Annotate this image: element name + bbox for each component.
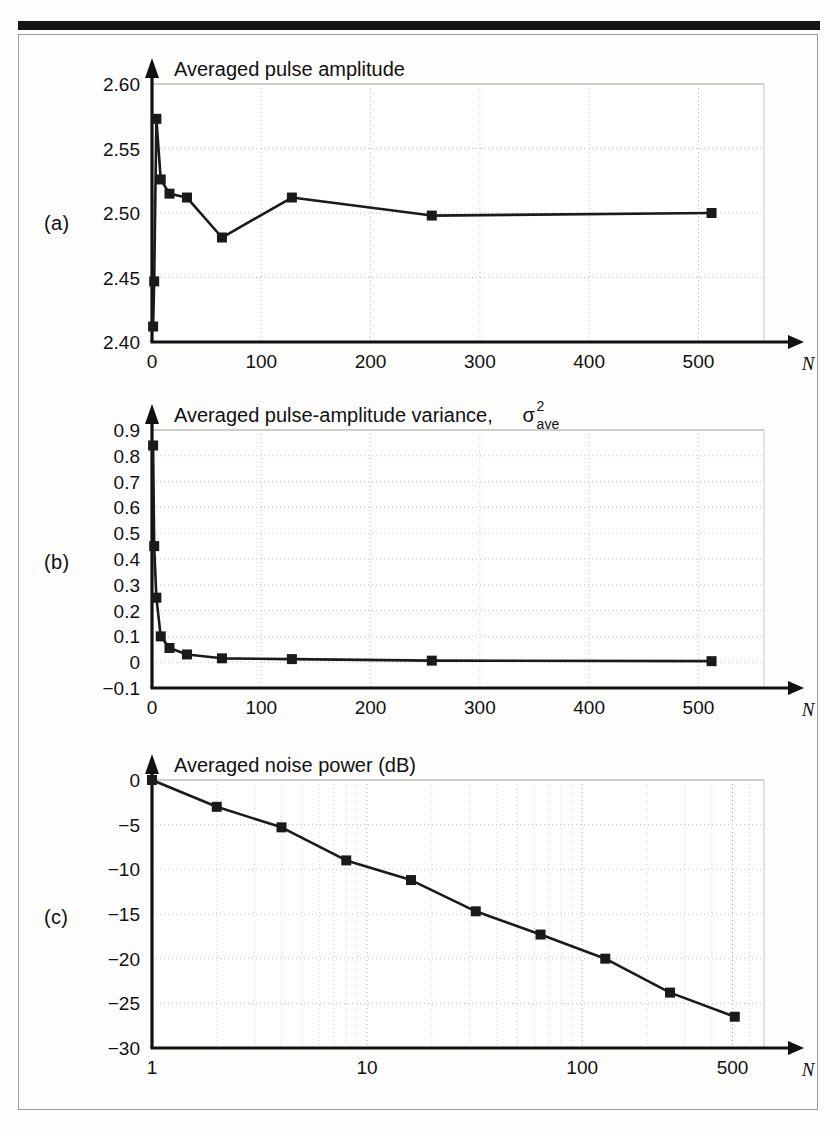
y-tick-label: 2.55 xyxy=(103,139,140,160)
y-tick-label: 0.9 xyxy=(114,420,140,441)
data-point-marker xyxy=(151,114,161,124)
data-point-marker xyxy=(147,775,157,785)
x-axis-name: N xyxy=(801,699,816,720)
y-tick-label: −20 xyxy=(108,949,140,970)
data-point-marker xyxy=(341,855,351,865)
x-tick-label: 300 xyxy=(464,351,496,372)
y-tick-label: 0.1 xyxy=(114,626,140,647)
x-tick-label: 1 xyxy=(147,1057,158,1078)
x-tick-label: 200 xyxy=(355,351,387,372)
chart-title: Averaged pulse amplitude xyxy=(174,58,405,80)
data-point-marker xyxy=(406,875,416,885)
y-tick-label: −30 xyxy=(108,1038,140,1059)
x-tick-label: 300 xyxy=(464,697,496,718)
y-tick-label: 0.2 xyxy=(114,601,140,622)
x-axis-name: N xyxy=(801,353,816,374)
data-point-marker xyxy=(148,322,158,332)
figure-page: (a) (b) (c) 2.402.452.502.552.6001002003… xyxy=(0,0,838,1133)
data-point-marker xyxy=(471,906,481,916)
data-point-marker xyxy=(164,189,174,199)
sigma-symbol: σ xyxy=(523,404,536,426)
x-tick-label: 500 xyxy=(717,1057,749,1078)
x-tick-label: 400 xyxy=(573,697,605,718)
chart-averaged-pulse-amplitude-variance: −0.100.10.20.30.40.50.60.70.80.901002003… xyxy=(88,398,828,728)
data-point-marker xyxy=(217,653,227,663)
data-point-marker xyxy=(730,1012,740,1022)
data-point-marker xyxy=(427,656,437,666)
x-tick-label: 10 xyxy=(357,1057,378,1078)
x-tick-label: 200 xyxy=(355,697,387,718)
chart-title: Averaged noise power (dB) xyxy=(174,754,416,776)
data-point-marker xyxy=(287,654,297,664)
x-tick-label: 100 xyxy=(245,697,277,718)
y-tick-label: 0.4 xyxy=(114,549,141,570)
data-point-marker xyxy=(149,276,159,286)
y-tick-label: 0.5 xyxy=(114,523,140,544)
y-tick-label: −15 xyxy=(108,904,140,925)
data-point-marker xyxy=(707,208,717,218)
y-tick-label: 2.45 xyxy=(103,268,140,289)
x-tick-label: 400 xyxy=(573,351,605,372)
y-tick-label: 2.50 xyxy=(103,203,140,224)
y-tick-label: 2.60 xyxy=(103,74,140,95)
y-tick-label: −0.1 xyxy=(102,678,140,699)
data-point-marker xyxy=(287,193,297,203)
data-point-marker xyxy=(217,233,227,243)
x-tick-label: 500 xyxy=(683,697,715,718)
sigma-superscript: 2 xyxy=(537,398,545,414)
panel-label-b: (b) xyxy=(44,551,69,574)
data-point-marker xyxy=(156,631,166,641)
chart-averaged-noise-power: −30−25−20−15−10−50110100500NAveraged noi… xyxy=(88,748,828,1088)
y-tick-label: 2.40 xyxy=(103,332,140,353)
x-tick-label: 100 xyxy=(566,1057,598,1078)
data-point-marker xyxy=(182,649,192,659)
y-tick-label: −10 xyxy=(108,859,140,880)
data-point-marker xyxy=(277,822,287,832)
y-tick-label: −5 xyxy=(118,815,140,836)
x-tick-label: 100 xyxy=(245,351,277,372)
y-tick-label: 0.8 xyxy=(114,446,140,467)
x-axis-name: N xyxy=(801,1059,816,1080)
data-point-marker xyxy=(427,211,437,221)
y-tick-label: 0.7 xyxy=(114,472,140,493)
panel-label-c: (c) xyxy=(44,906,68,929)
x-tick-label: 500 xyxy=(683,351,715,372)
data-point-marker xyxy=(149,541,159,551)
x-tick-label: 0 xyxy=(147,697,158,718)
y-tick-label: 0 xyxy=(129,770,140,791)
top-rule-divider xyxy=(18,21,820,30)
data-point-marker xyxy=(156,174,166,184)
data-point-marker xyxy=(164,643,174,653)
data-point-marker xyxy=(600,954,610,964)
y-tick-label: 0 xyxy=(129,652,140,673)
data-point-marker xyxy=(536,930,546,940)
y-tick-label: −25 xyxy=(108,993,140,1014)
data-point-marker xyxy=(212,802,222,812)
data-point-marker xyxy=(182,193,192,203)
chart-averaged-pulse-amplitude: 2.402.452.502.552.600100200300400500NAve… xyxy=(88,52,828,382)
data-point-marker xyxy=(665,988,675,998)
sigma-subscript: ave xyxy=(537,416,560,432)
data-point-marker xyxy=(151,593,161,603)
y-tick-label: 0.6 xyxy=(114,497,140,518)
data-point-marker xyxy=(707,656,717,666)
data-point-marker xyxy=(148,440,158,450)
y-tick-label: 0.3 xyxy=(114,575,140,596)
chart-title: Averaged pulse-amplitude variance, xyxy=(174,404,493,426)
panel-label-a: (a) xyxy=(44,212,69,235)
x-tick-label: 0 xyxy=(147,351,158,372)
